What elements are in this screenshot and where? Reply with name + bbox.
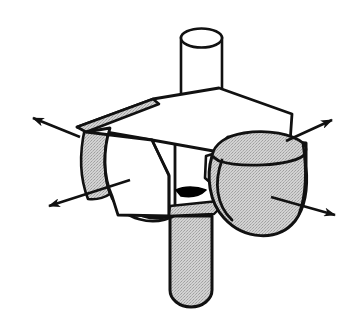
bottom-cylinder-body — [170, 216, 212, 307]
top-cylinder-rim — [181, 29, 222, 48]
figure-container — [0, 0, 364, 324]
bottom-cylinder — [170, 216, 212, 307]
technical-drawing — [0, 0, 364, 324]
